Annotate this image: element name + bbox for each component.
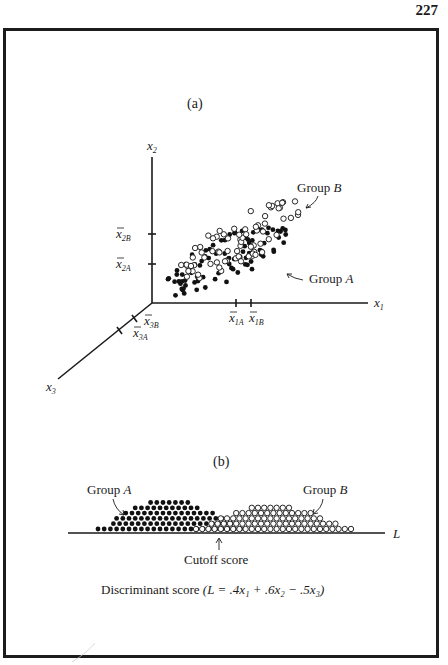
cutoff-arrow: [216, 538, 222, 550]
panel-b-label: (b): [213, 454, 230, 470]
group-a-label-b: Group A: [87, 482, 131, 497]
mean-x2B-label: x2B: [115, 226, 131, 243]
l-axis-label: L: [392, 526, 400, 541]
mean-x1B-label: x1B: [248, 310, 264, 327]
scatter-group-b: [179, 199, 301, 281]
group-b-label-a: Group B: [297, 180, 341, 195]
mean-x2A-label: x2A: [115, 256, 131, 273]
discriminant-caption: Discriminant score (L = .4x₁ + .6x₂ − .5…: [101, 582, 324, 597]
group-b-arrow-b: [313, 499, 323, 514]
group-b-arrow: [306, 196, 318, 208]
x2-axis-label: x2: [146, 138, 157, 155]
group-a-arrow: [287, 274, 303, 280]
figure-svg: (a) x2 x1 x3 x2B x2A x1A x1B x3B x3A G: [0, 0, 448, 665]
mean-x1A-label: x1A: [228, 310, 244, 327]
group-b-label-b: Group B: [303, 482, 347, 497]
panel-a-label: (a): [187, 96, 203, 112]
x3-axis-label: x3: [45, 379, 56, 396]
group-a-arrow-b: [113, 499, 124, 515]
mean-x3B-label: x3B: [143, 313, 159, 330]
x1-axis-label: x1: [373, 295, 384, 312]
group-a-label-a: Group A: [309, 271, 353, 286]
cutoff-label: Cutoff score: [184, 552, 249, 567]
scan-mark: [72, 643, 95, 662]
